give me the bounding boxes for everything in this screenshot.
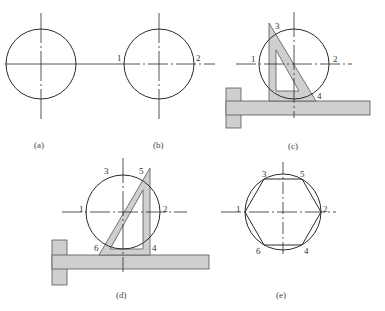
- t-square: [52, 240, 209, 285]
- point-label-5: 5: [300, 169, 305, 179]
- point-label-1: 1: [251, 54, 256, 64]
- caption-e: (e): [276, 290, 286, 300]
- point-label-3: 3: [262, 169, 267, 179]
- point-label-2: 2: [323, 204, 328, 214]
- point-label-1: 1: [236, 204, 241, 214]
- point-label-2: 2: [163, 204, 168, 214]
- panel-c: [226, 12, 370, 128]
- point-label-4: 4: [152, 243, 157, 253]
- panel-d: [52, 158, 209, 285]
- point-label-6: 6: [94, 243, 99, 253]
- panel-b: [120, 13, 215, 120]
- point-label-2: 2: [333, 54, 338, 64]
- set-square: [269, 23, 316, 101]
- point-label-6: 6: [256, 246, 261, 256]
- point-label-5: 5: [139, 166, 144, 176]
- caption-b: (b): [153, 140, 164, 150]
- point-label-4: 4: [317, 91, 322, 101]
- point-label-4: 4: [304, 246, 309, 256]
- point-label-3: 3: [275, 21, 280, 31]
- hexagon-construction-figure: (a) 1 2 (b) 3 1 2 4 (c): [0, 0, 385, 311]
- caption-c: (c): [288, 141, 298, 151]
- point-label-1: 1: [117, 53, 122, 63]
- point-label-2: 2: [196, 53, 201, 63]
- panel-a: [5, 13, 120, 120]
- figure-canvas: (a) 1 2 (b) 3 1 2 4 (c): [0, 0, 385, 311]
- caption-a: (a): [34, 140, 44, 150]
- point-label-1: 1: [79, 204, 84, 214]
- point-label-3: 3: [104, 166, 109, 176]
- caption-d: (d): [116, 290, 127, 300]
